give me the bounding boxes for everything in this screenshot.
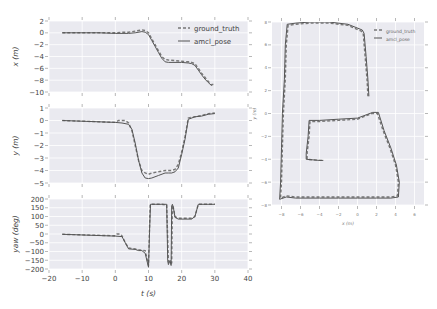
y-tick-label: 8: [264, 20, 267, 25]
y-tick-label: −5: [34, 180, 44, 188]
y-tick-label: −200: [25, 266, 44, 274]
y-tick-label: −2: [34, 142, 44, 150]
y-tick-label: 50: [35, 222, 44, 230]
x-tick-label: −20: [42, 275, 57, 283]
y-tick-label: 0: [40, 117, 44, 125]
y-tick-label: 2: [264, 88, 267, 93]
x-tick-label: −4: [317, 212, 323, 217]
y-tick-label: 0: [264, 111, 267, 116]
y-tick-label: 100: [31, 213, 44, 221]
y-axis-label: x (m): [11, 46, 20, 67]
y-tick-label: 6: [264, 42, 267, 47]
x-tick-label: 4: [394, 212, 397, 217]
y-tick-label: −150: [25, 257, 44, 265]
x-vs-time-panel: 20−2−4−6−8−10x (m)ground_truthamcl_pose: [11, 17, 252, 97]
x-tick-label: −10: [75, 275, 90, 283]
y-tick-label: −2: [261, 134, 267, 139]
y-tick-label: 4: [264, 65, 267, 70]
y-tick-label: −1: [34, 130, 44, 138]
x-tick-label: −2: [336, 212, 342, 217]
y-tick-label: −4: [34, 167, 45, 175]
y-tick-label: −10: [29, 89, 44, 97]
x-tick-label: 10: [144, 275, 153, 283]
x-tick-label: −6: [298, 212, 304, 217]
x-tick-label: 6: [413, 212, 416, 217]
x-tick-label: 30: [210, 275, 219, 283]
y-tick-label: −6: [261, 180, 267, 185]
x-axis-label: t (s): [141, 289, 156, 298]
y-tick-label: 1: [40, 105, 44, 113]
y-axis-label: y (m): [11, 135, 20, 156]
y-tick-label: −8: [34, 77, 44, 85]
y-tick-label: −3: [34, 155, 44, 163]
legend-label-amcl-pose: amcl_pose: [194, 38, 231, 46]
y-tick-label: 0: [40, 29, 44, 37]
y-tick-label: −6: [34, 65, 45, 73]
y-tick-label: −100: [25, 248, 44, 256]
y-tick-label: 200: [31, 196, 44, 204]
y-vs-time-panel: 10−1−2−3−4−5y (m): [11, 104, 252, 188]
y-tick-label: −50: [29, 239, 44, 247]
x-tick-label: 40: [244, 275, 253, 283]
figure: 20−2−4−6−8−10x (m)ground_truthamcl_pose1…: [0, 0, 437, 309]
yaw-vs-time-panel: 200150100500−50−100−150−200−20−100102030…: [11, 195, 252, 298]
x-tick-label: 20: [177, 275, 186, 283]
x-tick-label: 2: [375, 212, 378, 217]
y-axis-label: yaw (deg): [11, 215, 20, 254]
y-tick-label: −4: [261, 157, 267, 162]
y-tick-label: −4: [34, 53, 45, 61]
legend-label-ground-truth: ground_truth: [194, 25, 240, 33]
trajectory-panel: 86420−2−4−6−8−8−6−4−20246y (m)x (m)groun…: [252, 18, 428, 226]
x-tick-label: 0: [113, 275, 117, 283]
y-tick-label: 150: [31, 204, 44, 212]
y-tick-label: 2: [40, 18, 44, 26]
y-tick-label: −8: [261, 203, 267, 208]
x-tick-label: −8: [279, 212, 285, 217]
y-axis-label: y (m): [252, 107, 257, 120]
y-tick-label: 0: [40, 231, 44, 239]
x-tick-label: 0: [356, 212, 359, 217]
x-axis-label: x (m): [341, 221, 354, 226]
y-tick-label: −2: [34, 41, 44, 49]
